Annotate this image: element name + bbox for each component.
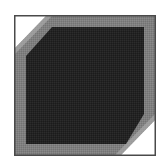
frame-icon: [0, 0, 163, 167]
square-frame-graphic: [0, 0, 163, 167]
dark-interior: [26, 27, 144, 144]
